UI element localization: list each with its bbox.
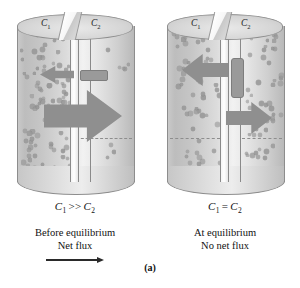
particle-dot [49,145,53,149]
particle-dot [262,48,266,52]
particle-dot [188,111,193,116]
diffusion-equilibrium-figure: C1 C2 C1>>C2 Before equilibrium Net flux [0,0,300,288]
particle-dot [191,127,195,131]
concentration-relation-label: C1=C2 [150,200,300,215]
particle-dot [35,84,39,88]
state-caption: Before equilibrium Net flux [0,226,150,252]
particle-dot [201,92,205,96]
particle-dot [59,131,63,135]
particle-dot [272,113,275,116]
particle-dot [197,139,201,143]
particle-dot [279,73,284,78]
particle-dot [185,112,189,116]
particle-dot [106,48,110,52]
particle-dot [188,161,192,165]
top-label-c1: C1 [41,18,51,30]
particle-dot [252,133,256,137]
particle-dot [256,155,260,159]
particle-dot [261,55,266,60]
net-flux-arrow-shaft [46,259,98,261]
particle-dot [200,113,205,118]
particle-dot [40,89,43,92]
hidden-back-edge-dashed-right [242,138,282,139]
particle-dot [66,157,69,160]
particle-dot [180,77,185,82]
particle-dot [52,148,56,152]
particle-dot [109,143,113,147]
particle-dot [27,131,32,136]
particle-dot [273,79,276,82]
particle-dot [112,150,116,154]
particle-dot [106,156,109,159]
particle-dot [64,145,69,150]
panel-container: C1 C2 C1>>C2 Before equilibrium Net flux [0,0,300,288]
panel-at-equilibrium: C1 C2 C1=C2 At equilibrium No net flux [150,0,300,288]
particle-dot [20,49,23,52]
membrane-wall [70,26,79,182]
particle-dot [279,113,283,117]
particle-dot [264,149,269,154]
particle-dot [53,39,56,42]
cylinder-at-equilibrium: C1 C2 [167,14,283,194]
particle-dot [21,58,24,61]
particle-dot [25,75,29,79]
particle-dot [197,155,202,160]
particle-dot [32,49,37,54]
figure-label: (a) [0,262,300,273]
particle-dot [271,83,275,87]
state-caption: At equilibrium No net flux [150,226,300,252]
particle-dot [267,61,271,65]
cylinder-before-equilibrium: C1 C2 [17,14,133,194]
particle-dot [43,43,47,47]
particle-dot [62,84,66,88]
particle-dot [215,88,219,92]
particle-dot [186,150,189,153]
particle-dot [30,94,34,98]
particle-dot [127,63,130,66]
particle-dot [30,137,34,141]
particle-dot [24,139,28,143]
membrane-pore [80,70,108,81]
particle-dot [40,47,45,52]
top-label-c1: C1 [191,18,201,30]
particle-dot [246,154,249,157]
state-line-1: Before equilibrium [0,226,150,239]
particle-dot [259,101,264,106]
particle-dot [205,114,208,117]
particle-dot [246,100,249,103]
particle-dot [212,149,216,153]
cylinder-body [167,26,285,182]
particle-dot [36,67,39,70]
particle-dot [47,83,52,88]
particle-dot [56,50,60,54]
particle-dot [33,154,37,158]
particle-dot [118,66,121,69]
particle-dot [28,158,32,162]
particle-dot [180,83,183,86]
particle-dot [269,106,274,111]
top-label-c2: C2 [91,18,101,30]
hidden-back-edge-dashed-left [170,138,220,139]
particle-dot [258,133,262,137]
state-line-2: No net flux [150,239,300,252]
particle-dot [258,148,261,151]
particle-dot [52,62,55,65]
particle-dot [65,137,68,140]
particle-dot [246,88,250,92]
membrane-wall [220,26,229,182]
particle-dot [34,144,37,147]
particle-dot [36,106,39,109]
particle-dot [33,72,36,75]
state-line-1: At equilibrium [150,226,300,239]
hidden-back-edge-dashed [76,138,132,139]
particle-dot [271,119,275,123]
particle-dot [248,133,251,136]
particle-dot [263,156,267,160]
particle-dot [248,53,252,57]
particle-dot [176,45,179,48]
cylinder-body [17,26,135,182]
membrane-far-edge [240,26,241,182]
particle-dot [196,40,200,44]
particle-dot [43,65,46,68]
particle-dot [214,83,218,87]
